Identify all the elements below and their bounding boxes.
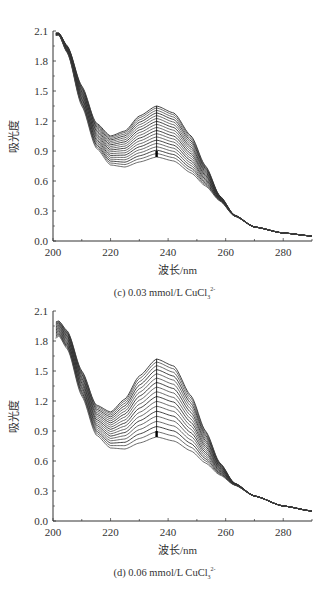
y-tick-label: 1.8 xyxy=(34,55,48,67)
y-tick-label: 0.6 xyxy=(34,455,48,467)
x-tick-label: 280 xyxy=(275,246,292,258)
y-tick-label: 0.9 xyxy=(34,145,48,157)
y-tick-label: 2.1 xyxy=(34,305,48,317)
x-axis-title: 波长/nm xyxy=(158,264,198,276)
y-tick-label: 1.2 xyxy=(34,115,48,127)
y-tick-label: 0.3 xyxy=(34,205,48,217)
y-tick-label: 1.5 xyxy=(34,85,48,97)
x-tick-label: 260 xyxy=(217,526,234,538)
y-tick-label: 1.5 xyxy=(34,365,48,377)
spectra-curves xyxy=(56,321,312,511)
spectrum-line xyxy=(56,331,312,511)
caption-d: (d) 0.06 mmol/L CuCl32- xyxy=(0,566,329,580)
y-tick-label: 1.2 xyxy=(34,395,48,407)
x-tick-label: 240 xyxy=(160,526,177,538)
x-tick-label: 200 xyxy=(45,246,62,258)
chart-panel-c: 0.00.30.60.91.21.51.82.1200220240260280波… xyxy=(0,0,329,300)
y-axis-title: 吸光度 xyxy=(7,400,20,433)
y-tick-label: 0.6 xyxy=(34,175,48,187)
x-tick-label: 240 xyxy=(160,246,177,258)
x-tick-label: 220 xyxy=(102,526,119,538)
absorbance-chart-c: 0.00.30.60.91.21.51.82.1200220240260280波… xyxy=(0,0,329,300)
y-axis-title: 吸光度 xyxy=(7,120,20,153)
x-tick-label: 260 xyxy=(217,246,234,258)
arrow-head-icon xyxy=(155,431,157,437)
y-tick-label: 0.9 xyxy=(34,425,48,437)
x-tick-label: 280 xyxy=(275,526,292,538)
caption-sup: 2- xyxy=(211,566,216,572)
absorbance-chart-d: 0.00.30.60.91.21.51.82.1200220240260280波… xyxy=(0,280,329,595)
caption-text: (d) 0.06 mmol/L CuCl xyxy=(113,567,207,578)
x-axis-title: 波长/nm xyxy=(158,544,198,556)
y-tick-label: 2.1 xyxy=(34,25,48,37)
caption-sub: 3 xyxy=(208,574,211,580)
spectra-curves xyxy=(56,33,312,236)
chart-panel-d: 0.00.30.60.91.21.51.82.1200220240260280波… xyxy=(0,280,329,595)
y-tick-label: 1.8 xyxy=(34,335,48,347)
spectrum-line xyxy=(56,330,312,511)
x-tick-label: 200 xyxy=(45,526,62,538)
x-tick-label: 220 xyxy=(102,246,119,258)
arrow-head-icon xyxy=(155,151,157,157)
y-tick-label: 0.3 xyxy=(34,485,48,497)
